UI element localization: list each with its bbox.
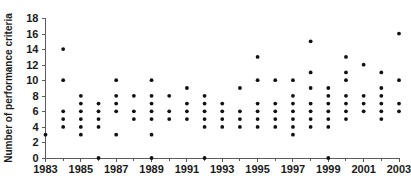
data-point: [344, 78, 348, 82]
data-point: [291, 102, 295, 106]
data-point: [326, 117, 330, 121]
y-tick-label: 14: [26, 43, 39, 55]
data-point: [97, 156, 101, 160]
data-point: [97, 117, 101, 121]
data-point: [344, 71, 348, 75]
data-point: [379, 117, 383, 121]
data-point: [114, 78, 118, 82]
data-point: [185, 109, 189, 113]
data-point: [97, 109, 101, 113]
data-point: [61, 47, 65, 51]
data-point: [291, 117, 295, 121]
data-point: [220, 102, 224, 106]
data-point: [273, 102, 277, 106]
data-point: [273, 125, 277, 129]
chart-canvas: Number of performance criteria 024681012…: [0, 0, 411, 186]
data-point: [185, 86, 189, 90]
data-point: [362, 63, 366, 67]
y-tick-label: 4: [32, 121, 39, 133]
data-point: [238, 109, 242, 113]
data-point: [256, 125, 260, 129]
data-point: [132, 94, 136, 98]
x-tick-label: 1995: [245, 163, 269, 175]
data-point: [291, 133, 295, 137]
data-point: [114, 109, 118, 113]
data-point: [256, 55, 260, 59]
data-point: [61, 117, 65, 121]
data-point: [220, 125, 224, 129]
data-point: [203, 125, 207, 129]
data-point: [79, 133, 83, 137]
data-point: [150, 109, 154, 113]
data-point: [220, 117, 224, 121]
data-point: [256, 109, 260, 113]
data-point: [309, 109, 313, 113]
data-point: [326, 102, 330, 106]
data-point: [362, 109, 366, 113]
data-point: [150, 94, 154, 98]
data-point: [309, 71, 313, 75]
data-point: [291, 109, 295, 113]
data-point: [167, 109, 171, 113]
data-point: [150, 117, 154, 121]
data-point: [379, 102, 383, 106]
data-point: [203, 109, 207, 113]
data-point: [256, 117, 260, 121]
data-point: [397, 102, 401, 106]
data-point: [79, 94, 83, 98]
data-point: [326, 94, 330, 98]
data-point: [79, 125, 83, 129]
data-point: [273, 109, 277, 113]
data-point: [362, 102, 366, 106]
data-point: [61, 125, 65, 129]
data-point: [114, 133, 118, 137]
x-tick-label: 1991: [175, 163, 199, 175]
data-point: [309, 117, 313, 121]
data-point: [97, 125, 101, 129]
data-point: [397, 32, 401, 36]
data-point: [203, 102, 207, 106]
data-point: [291, 78, 295, 82]
data-point: [326, 156, 330, 160]
x-tick-label: 1999: [316, 163, 340, 175]
data-point: [256, 102, 260, 106]
data-point: [344, 55, 348, 59]
data-point: [238, 125, 242, 129]
data-point: [379, 86, 383, 90]
data-point: [309, 39, 313, 43]
x-tick-label: 2001: [351, 163, 375, 175]
data-point: [362, 94, 366, 98]
y-tick-label: 6: [32, 105, 38, 117]
y-tick-label: 16: [26, 28, 38, 40]
data-point: [309, 125, 313, 129]
x-tick-label: 1993: [210, 163, 234, 175]
data-point: [309, 102, 313, 106]
y-tick-label: 8: [32, 90, 38, 102]
x-tick-label: 2003: [387, 163, 411, 175]
data-point: [203, 94, 207, 98]
data-point: [379, 94, 383, 98]
data-point: [238, 117, 242, 121]
data-point: [132, 117, 136, 121]
x-tick-label: 1997: [281, 163, 305, 175]
data-point: [203, 117, 207, 121]
x-tick-label: 1987: [104, 163, 128, 175]
data-point: [238, 86, 242, 90]
y-tick-label: 10: [26, 74, 38, 86]
data-point: [344, 94, 348, 98]
data-point: [150, 78, 154, 82]
y-tick-label: 18: [26, 12, 38, 24]
data-point: [203, 156, 207, 160]
data-point: [273, 78, 277, 82]
data-point: [344, 117, 348, 121]
x-tick-label: 1989: [139, 163, 163, 175]
y-axis-title: Number of performance criteria: [3, 13, 14, 163]
data-point: [167, 117, 171, 121]
data-point: [309, 86, 313, 90]
y-axis-title-text: Number of performance criteria: [3, 13, 14, 163]
y-tick-label: 2: [32, 136, 38, 148]
data-point: [61, 109, 65, 113]
data-point: [114, 102, 118, 106]
data-point: [256, 78, 260, 82]
data-point: [79, 102, 83, 106]
